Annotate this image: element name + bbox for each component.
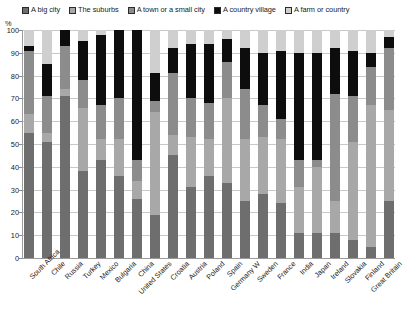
bar-bulgaria[interactable] bbox=[114, 30, 124, 258]
bar-segment bbox=[24, 30, 34, 46]
bar-segment bbox=[312, 167, 322, 233]
bar-segment bbox=[150, 215, 160, 258]
bar-segment bbox=[258, 30, 268, 53]
legend-item[interactable]: A country village bbox=[214, 6, 276, 14]
legend-swatch-suburbs-icon bbox=[69, 7, 76, 14]
bar-segment bbox=[42, 64, 52, 96]
legend-item-label: A country village bbox=[223, 6, 276, 14]
bar-japan[interactable] bbox=[312, 30, 322, 258]
bar-segment bbox=[312, 233, 322, 258]
bar-segment bbox=[24, 51, 34, 115]
x-axis-tick-labels: South AfricaChileRussiaTurkeyMexicoBulga… bbox=[22, 260, 394, 315]
bar-germany-w[interactable] bbox=[240, 30, 250, 258]
bar-france[interactable] bbox=[276, 30, 286, 258]
bar-ireland[interactable] bbox=[330, 30, 340, 258]
bar-segment bbox=[150, 30, 160, 73]
bar-segment bbox=[276, 203, 286, 258]
bar-segment bbox=[150, 101, 160, 112]
legend-item-label: The suburbs bbox=[78, 6, 119, 14]
bar-segment bbox=[78, 41, 88, 80]
bar-segment bbox=[204, 30, 214, 44]
bar-segment bbox=[168, 48, 178, 73]
bar-segment bbox=[348, 51, 358, 97]
bar-mexico[interactable] bbox=[96, 30, 106, 258]
bar-segment bbox=[204, 103, 214, 139]
bar-segment bbox=[132, 30, 142, 160]
bar-segment bbox=[42, 30, 52, 64]
bar-south-africa[interactable] bbox=[24, 30, 34, 258]
bar-segment bbox=[348, 30, 358, 51]
bar-austria[interactable] bbox=[186, 30, 196, 258]
bar-segment bbox=[258, 194, 268, 258]
bar-segment bbox=[258, 105, 268, 137]
bar-segment bbox=[384, 48, 394, 110]
bar-segment bbox=[330, 94, 340, 201]
chart-legend: A big cityThe suburbsA town or a small c… bbox=[22, 3, 394, 17]
y-tick-label: 30 bbox=[11, 186, 19, 195]
bar-segment bbox=[276, 139, 286, 203]
bar-segment bbox=[114, 30, 124, 98]
bar-segment bbox=[186, 98, 196, 137]
bar-segment bbox=[348, 96, 358, 142]
bar-great-britain[interactable] bbox=[384, 30, 394, 258]
bar-segment bbox=[186, 137, 196, 187]
bar-segment bbox=[222, 30, 232, 39]
bar-segment bbox=[204, 176, 214, 258]
bar-spain[interactable] bbox=[222, 30, 232, 258]
bar-finland[interactable] bbox=[366, 30, 376, 258]
y-tick-label: 60 bbox=[11, 117, 19, 126]
legend-item[interactable]: The suburbs bbox=[69, 6, 119, 14]
bar-segment bbox=[150, 73, 160, 100]
bar-segment bbox=[294, 187, 304, 233]
bar-segment bbox=[384, 30, 394, 37]
bar-segment bbox=[186, 44, 196, 99]
bar-united-states[interactable] bbox=[150, 30, 160, 258]
legend-item-label: A town or a small city bbox=[137, 6, 205, 14]
bar-segment bbox=[78, 30, 88, 41]
legend-item[interactable]: A big city bbox=[22, 6, 60, 14]
legend-item[interactable]: A farm or country bbox=[285, 6, 349, 14]
bar-segment bbox=[258, 137, 268, 194]
bar-segment bbox=[366, 67, 376, 106]
bar-segment bbox=[276, 119, 286, 140]
bar-segment bbox=[330, 30, 340, 48]
bar-segment bbox=[294, 53, 304, 160]
legend-swatch-village-icon bbox=[214, 7, 221, 14]
bar-segment bbox=[348, 142, 358, 240]
bar-segment bbox=[384, 110, 394, 201]
plot-area bbox=[22, 30, 395, 259]
bar-segment bbox=[60, 96, 70, 258]
y-axis-tick-labels: 0102030405060708090100 bbox=[0, 30, 19, 259]
bar-segment bbox=[204, 44, 214, 103]
bar-chile[interactable] bbox=[42, 30, 52, 258]
bar-china[interactable] bbox=[132, 30, 142, 258]
bar-segment bbox=[114, 98, 124, 139]
bar-croatia[interactable] bbox=[168, 30, 178, 258]
bar-sweden[interactable] bbox=[258, 30, 268, 258]
bar-segment bbox=[168, 73, 178, 135]
legend-swatch-town-icon bbox=[128, 7, 135, 14]
bar-segment bbox=[114, 139, 124, 175]
bar-segment bbox=[330, 233, 340, 258]
bar-segment bbox=[204, 139, 214, 175]
legend-item-label: A big city bbox=[31, 6, 60, 14]
bar-segment bbox=[96, 139, 106, 160]
bar-segment bbox=[24, 114, 34, 132]
bar-segment bbox=[294, 30, 304, 53]
bar-segment bbox=[168, 135, 178, 156]
legend-item-label: A farm or country bbox=[294, 6, 349, 14]
legend-item[interactable]: A town or a small city bbox=[128, 6, 205, 14]
bar-poland[interactable] bbox=[204, 30, 214, 258]
bar-segment bbox=[24, 133, 34, 258]
bar-slovakia[interactable] bbox=[348, 30, 358, 258]
bar-segment bbox=[222, 183, 232, 258]
bar-segment bbox=[330, 48, 340, 94]
bar-segment bbox=[132, 160, 142, 181]
bar-turkey[interactable] bbox=[78, 30, 88, 258]
bar-segment bbox=[114, 176, 124, 258]
bar-segment bbox=[168, 155, 178, 258]
bar-russia[interactable] bbox=[60, 30, 70, 258]
bar-segment bbox=[384, 37, 394, 48]
bar-segment bbox=[294, 233, 304, 258]
bar-india[interactable] bbox=[294, 30, 304, 258]
